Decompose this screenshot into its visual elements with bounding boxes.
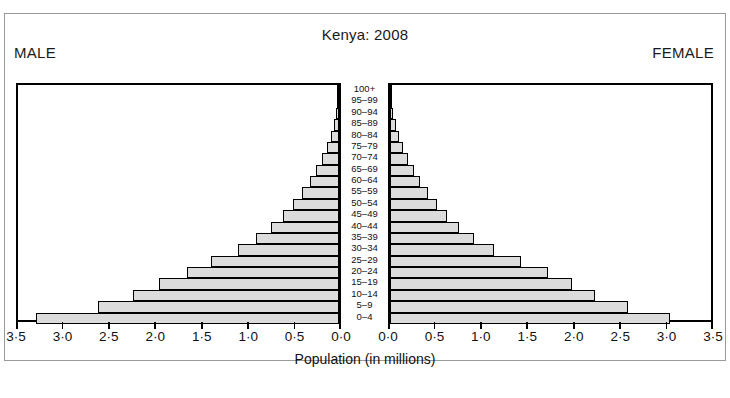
bar-female-20_24 [390, 267, 548, 278]
x-axis-title: Population (in millions) [0, 351, 730, 367]
axis-tick-label: 2·0 [564, 329, 584, 344]
axis-tick [154, 322, 156, 329]
bar-male-15_19 [159, 278, 339, 289]
age-label-15_19: 15–19 [341, 276, 388, 287]
bar-male-70_74 [322, 153, 339, 164]
age-label-85_89: 85–89 [341, 117, 388, 128]
bar-row [390, 233, 711, 244]
bar-row [390, 176, 711, 187]
age-label-95_99: 95–99 [341, 94, 388, 105]
axis-tick-label: 2·5 [610, 329, 630, 344]
bar-row [390, 199, 711, 210]
bar-female-45_49 [390, 210, 447, 221]
bar-male-30_34 [238, 244, 339, 255]
male-axis-ticks [16, 322, 341, 329]
bar-row [18, 278, 339, 289]
age-label-40_44: 40–44 [341, 220, 388, 231]
bar-female-30_34 [390, 244, 494, 255]
axis-tick [201, 322, 203, 329]
bar-row [390, 142, 711, 153]
bar-male-5_9 [98, 301, 339, 312]
female-axis-ticks [388, 322, 713, 329]
female-side-label: FEMALE [652, 44, 714, 61]
age-label-35_39: 35–39 [341, 231, 388, 242]
axis-tick [16, 322, 18, 329]
bar-female-90_94 [390, 108, 393, 119]
bar-row [18, 222, 339, 233]
bar-row [390, 290, 711, 301]
bar-male-20_24 [187, 267, 339, 278]
bar-male-35_39 [256, 233, 339, 244]
axis-tick-label: 3·0 [53, 329, 73, 344]
age-label-20_24: 20–24 [341, 265, 388, 276]
bar-male-80_84 [331, 131, 339, 142]
age-label-100+: 100+ [341, 83, 388, 94]
bar-female-60_64 [390, 176, 420, 187]
axis-tick [711, 322, 713, 329]
age-label-65_69: 65–69 [341, 163, 388, 174]
bar-row [18, 267, 339, 278]
bar-row [390, 267, 711, 278]
bar-row [18, 165, 339, 176]
age-label-75_79: 75–79 [341, 140, 388, 151]
bar-row [18, 290, 339, 301]
bar-male-45_49 [283, 210, 339, 221]
bar-male-25_29 [211, 256, 339, 267]
axis-tick [526, 322, 528, 329]
bar-row [18, 142, 339, 153]
bar-row [390, 187, 711, 198]
bar-male-60_64 [310, 176, 339, 187]
population-pyramid-figure: Kenya: 2008 MALE FEMALE 0–45–910–1415–19… [0, 0, 730, 398]
bar-female-50_54 [390, 199, 437, 210]
axis-tick-label: 0·0 [331, 329, 351, 344]
female-plot-panel [388, 83, 713, 322]
axis-tick [666, 322, 668, 329]
axis-tick-label: 1·0 [238, 329, 258, 344]
bar-female-95_99 [390, 96, 392, 107]
bar-row [390, 153, 711, 164]
bar-female-65_69 [390, 165, 414, 176]
age-label-70_74: 70–74 [341, 151, 388, 162]
bar-female-75_79 [390, 142, 403, 153]
bar-male-50_54 [293, 199, 339, 210]
bar-row [390, 301, 711, 312]
bar-female-35_39 [390, 233, 474, 244]
axis-tick-label: 2·5 [99, 329, 119, 344]
axis-tick [108, 322, 110, 329]
bar-female-5_9 [390, 301, 628, 312]
bar-female-55_59 [390, 187, 428, 198]
axis-tick [388, 322, 390, 329]
bar-row [18, 108, 339, 119]
axis-tick [339, 322, 341, 329]
male-bar-group [18, 85, 339, 320]
age-label-45_49: 45–49 [341, 208, 388, 219]
bar-male-100+ [337, 85, 339, 96]
bar-row [390, 244, 711, 255]
bar-male-10_14 [133, 290, 339, 301]
age-group-axis: 0–45–910–1415–1920–2425–2930–3435–3940–4… [341, 83, 388, 322]
bar-row [390, 210, 711, 221]
male-axis-tick-labels: 0·00·51·01·52·02·53·03·5 [16, 329, 341, 347]
axis-tick-label: 3·0 [657, 329, 677, 344]
bar-row [390, 96, 711, 107]
chart-title: Kenya: 2008 [0, 26, 730, 43]
bar-female-25_29 [390, 256, 521, 267]
axis-tick-label: 2·0 [146, 329, 166, 344]
bar-row [18, 176, 339, 187]
axis-tick [62, 322, 64, 329]
bar-male-85_89 [334, 119, 339, 130]
axis-tick-label: 1·5 [192, 329, 212, 344]
bar-row [390, 256, 711, 267]
age-label-60_64: 60–64 [341, 174, 388, 185]
age-label-5_9: 5–9 [341, 299, 388, 310]
bar-row [18, 131, 339, 142]
age-label-30_34: 30–34 [341, 242, 388, 253]
age-label-80_84: 80–84 [341, 129, 388, 140]
axis-tick [294, 322, 296, 329]
bar-male-95_99 [337, 96, 339, 107]
axis-tick [247, 322, 249, 329]
bar-female-15_19 [390, 278, 572, 289]
bar-row [18, 96, 339, 107]
age-label-90_94: 90–94 [341, 106, 388, 117]
axis-tick [573, 322, 575, 329]
